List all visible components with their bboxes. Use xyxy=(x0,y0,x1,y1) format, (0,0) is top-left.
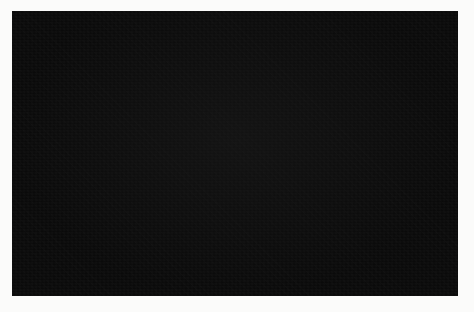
space-panel xyxy=(12,11,458,296)
orbit-layer xyxy=(12,11,458,296)
diagram-stage xyxy=(0,0,474,312)
